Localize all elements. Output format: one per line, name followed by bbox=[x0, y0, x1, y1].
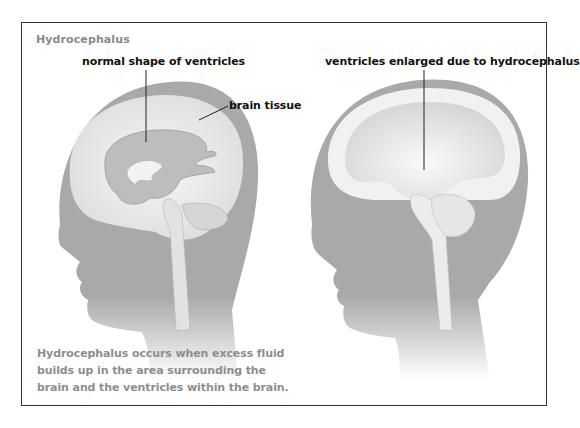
hydrocephalus-head-illustration bbox=[311, 79, 528, 380]
figure-caption: Hydrocephalus occurs when excess fluid b… bbox=[37, 345, 297, 396]
label-enlarged-ventricles: ventricles enlarged due to hydrocephalus bbox=[325, 55, 580, 68]
label-normal-ventricles: normal shape of ventricles bbox=[82, 55, 245, 68]
figure-title: Hydrocephalus bbox=[36, 33, 130, 46]
label-brain-tissue: brain tissue bbox=[229, 99, 301, 112]
normal-head-illustration bbox=[59, 81, 259, 380]
